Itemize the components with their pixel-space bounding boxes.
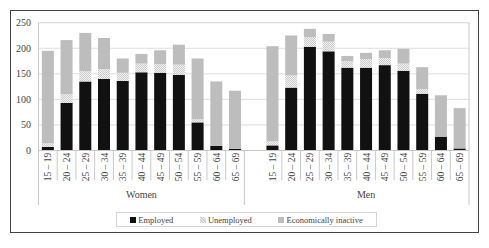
bar-segment-economically-inactive (323, 34, 335, 42)
y-tick-label: 50 (21, 119, 31, 130)
bar-segment-unemployed (117, 73, 129, 81)
bar-segment-economically-inactive (42, 51, 54, 144)
bar-segment-unemployed (416, 89, 428, 94)
bar-segment-employed (360, 68, 372, 151)
x-tick-label: 55 – 59 (193, 153, 203, 182)
bar-segment-unemployed (135, 64, 147, 73)
bar-segment-employed (416, 94, 428, 151)
bar-segment-unemployed (285, 75, 297, 87)
x-tick-label: 20 – 24 (287, 153, 297, 182)
bar-segment-employed (192, 122, 204, 150)
x-tick-label: 60 – 64 (212, 153, 222, 182)
unemployed-swatch-icon (200, 217, 206, 223)
bar-segment-economically-inactive (135, 54, 147, 64)
x-tick-label: 55 – 59 (418, 153, 428, 182)
x-tick-label: 50 – 54 (399, 153, 409, 182)
bar-segment-economically-inactive (454, 108, 466, 148)
bar-segment-employed (435, 137, 447, 151)
bar-segment-employed (135, 72, 147, 150)
bar-segment-economically-inactive (341, 56, 353, 61)
x-tick-label: 40 – 44 (137, 153, 147, 182)
bar-segment-economically-inactive (154, 50, 166, 64)
bar-segment-employed (42, 147, 54, 151)
x-tick-label: 45 – 49 (156, 153, 166, 182)
bar-segment-economically-inactive (117, 58, 129, 72)
bar-segment-employed (154, 73, 166, 151)
bar-segment-unemployed (192, 119, 204, 122)
bar-segment-economically-inactive (397, 49, 409, 64)
x-axis: 15 – 1920 – 2425 – 2930 – 3435 – 3940 – … (39, 151, 470, 206)
x-tick-label: 35 – 39 (118, 153, 128, 182)
legend-item-employed: Employed (130, 215, 173, 225)
x-tick-label: 65 – 69 (231, 153, 241, 182)
bar-segment-employed (379, 65, 391, 150)
y-tick-label: 200 (16, 43, 31, 54)
bar-segment-employed (323, 51, 335, 150)
bar-segment-unemployed (154, 64, 166, 73)
bar-segment-unemployed (79, 71, 91, 81)
bar-segment-employed (117, 81, 129, 151)
bar-segment-economically-inactive (173, 45, 185, 65)
bar-segment-economically-inactive (79, 33, 91, 71)
bar-segment-economically-inactive (435, 95, 447, 136)
group-label: Women (126, 189, 157, 200)
bars (42, 29, 466, 151)
bar-segment-unemployed (379, 58, 391, 65)
x-tick-label: 15 – 19 (268, 153, 278, 182)
bar-segment-economically-inactive (379, 50, 391, 58)
bar-segment-employed (266, 145, 278, 150)
bar-segment-employed (341, 68, 353, 151)
x-tick-label: 15 – 19 (43, 153, 53, 182)
x-tick-label: 25 – 29 (305, 153, 315, 182)
y-axis: 050100150200250 (16, 17, 31, 156)
y-tick-label: 250 (16, 17, 31, 28)
inactive-swatch-icon (278, 217, 284, 223)
group-label: Men (357, 189, 375, 200)
bar-segment-unemployed (266, 141, 278, 145)
bar-segment-employed (210, 146, 222, 151)
bar-segment-employed (79, 81, 91, 150)
bar-segment-employed (304, 47, 316, 151)
y-tick-label: 0 (26, 145, 31, 156)
x-tick-label: 30 – 34 (100, 153, 110, 182)
bar-segment-employed (61, 103, 73, 151)
x-tick-label: 25 – 29 (81, 153, 91, 182)
bar-segment-unemployed (98, 69, 110, 79)
x-tick-label: 45 – 49 (380, 153, 390, 182)
bar-segment-economically-inactive (61, 40, 73, 94)
bar-segment-economically-inactive (192, 58, 204, 119)
x-tick-label: 30 – 34 (324, 153, 334, 182)
x-tick-label: 40 – 44 (362, 153, 372, 182)
bar-segment-unemployed (173, 65, 185, 75)
bar-segment-unemployed (304, 37, 316, 47)
bar-segment-unemployed (360, 59, 372, 68)
x-tick-label: 35 – 39 (343, 153, 353, 182)
legend-label-employed: Employed (138, 215, 173, 225)
x-tick-label: 50 – 54 (174, 153, 184, 182)
bar-segment-economically-inactive (285, 35, 297, 75)
legend-label-unemployed: Unemployed (208, 215, 252, 225)
employed-swatch-icon (130, 217, 136, 223)
legend-item-inactive: Economically inactive (278, 215, 362, 225)
bar-segment-economically-inactive (98, 38, 110, 69)
x-tick-label: 60 – 64 (436, 153, 446, 182)
y-tick-label: 150 (16, 68, 31, 79)
bar-segment-employed (173, 75, 185, 151)
stacked-bar-chart: 050100150200250 15 – 1920 – 2425 – 2930 … (0, 0, 489, 248)
legend-item-unemployed: Unemployed (200, 215, 252, 225)
bar-segment-unemployed (61, 94, 73, 103)
bar-segment-economically-inactive (229, 91, 241, 149)
y-tick-label: 100 (16, 94, 31, 105)
bar-segment-unemployed (397, 64, 409, 71)
bar-segment-unemployed (341, 61, 353, 68)
bar-segment-employed (98, 79, 110, 151)
bar-segment-employed (397, 71, 409, 151)
bar-segment-unemployed (42, 143, 54, 147)
x-tick-label: 65 – 69 (455, 153, 465, 182)
x-tick-label: 20 – 24 (62, 153, 72, 182)
bar-segment-economically-inactive (210, 81, 222, 145)
bar-segment-unemployed (323, 42, 335, 52)
legend-label-inactive: Economically inactive (286, 215, 362, 225)
bar-segment-employed (285, 88, 297, 151)
bar-segment-economically-inactive (416, 67, 428, 89)
